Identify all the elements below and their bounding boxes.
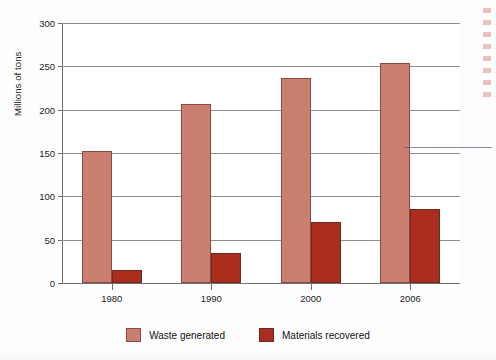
y-tick-label-300: 300 (39, 18, 55, 29)
y-tick-mark-300 (58, 23, 62, 24)
y-tick-label-200: 200 (39, 104, 55, 115)
plot-wrapper: 050100150200250300 1980199020002006 (62, 23, 460, 283)
y-tick-mark-250 (58, 66, 62, 67)
legend-label-materials-recovered: Materials recovered (282, 330, 370, 341)
stray-blue-rule (404, 147, 492, 148)
x-tick-label-1980: 1980 (101, 293, 122, 304)
x-tick-label-2000: 2000 (300, 293, 321, 304)
scan-shadow (0, 350, 496, 360)
legend-item-materials-recovered: Materials recovered (259, 328, 370, 342)
bar-waste-generated-2006 (380, 63, 410, 283)
y-tick-label-150: 150 (39, 148, 55, 159)
x-tick-mark-2000 (311, 283, 312, 290)
y-tick-mark-150 (58, 153, 62, 154)
legend-label-waste-generated: Waste generated (149, 330, 225, 341)
y-tick-label-0: 0 (50, 278, 55, 289)
bar-waste-generated-1990 (181, 104, 211, 283)
x-tick-label-2006: 2006 (400, 293, 421, 304)
bar-materials-recovered-2000 (311, 222, 341, 283)
y-tick-mark-200 (58, 110, 62, 111)
y-axis-title: Millions of tons (12, 0, 28, 116)
bar-materials-recovered-2006 (410, 209, 440, 283)
chart-figure: Millions of tons 050100150200250300 1980… (0, 0, 496, 360)
legend-swatch-waste-generated (126, 328, 141, 342)
y-tick-label-100: 100 (39, 191, 55, 202)
x-tick-label-1990: 1990 (201, 293, 222, 304)
legend-item-waste-generated: Waste generated (126, 328, 225, 342)
x-tick-mark-1980 (112, 283, 113, 290)
bar-waste-generated-2000 (281, 78, 311, 283)
x-tick-mark-2006 (410, 283, 411, 290)
gridline-300 (62, 23, 460, 24)
bar-waste-generated-1980 (82, 151, 112, 283)
y-tick-mark-50 (58, 240, 62, 241)
y-tick-mark-0 (58, 283, 62, 284)
y-tick-label-50: 50 (44, 234, 55, 245)
legend-swatch-materials-recovered (259, 328, 274, 342)
gridline-0 (62, 283, 460, 284)
page-margin-artifact (483, 8, 491, 100)
y-tick-mark-100 (58, 196, 62, 197)
chart-legend: Waste generatedMaterials recovered (0, 328, 496, 342)
bar-materials-recovered-1980 (112, 270, 142, 283)
x-tick-mark-1990 (211, 283, 212, 290)
y-tick-label-250: 250 (39, 61, 55, 72)
bar-materials-recovered-1990 (211, 253, 241, 283)
